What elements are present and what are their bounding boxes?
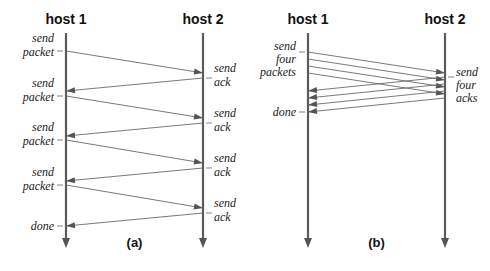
packet-message-arrow: [66, 51, 203, 73]
packet-message-arrow: [66, 96, 203, 118]
ack-message-arrow: [308, 98, 445, 112]
host-1-event-label: packet: [22, 90, 55, 104]
host-2-event-label: send: [214, 61, 237, 75]
packet-message-arrow: [66, 140, 203, 163]
arrowhead-icon: [308, 108, 317, 114]
host-2-event-label: ack: [214, 75, 231, 89]
host-1-header: host 1: [45, 11, 86, 27]
host-1-event-label: packets: [259, 65, 296, 79]
host-2-event-label: four: [456, 78, 476, 92]
diagram-b-sliding-window: host 1host 2sendfourpacketsdonesendfoura…: [259, 11, 479, 250]
host-2-header: host 2: [424, 11, 465, 27]
host-1-event-label: done: [31, 219, 55, 233]
arrowhead-icon: [436, 69, 445, 75]
arrowhead-icon: [66, 87, 75, 93]
arrowhead-icon: [194, 114, 203, 120]
diagram-caption: (b): [368, 235, 385, 250]
time-arrow-down-icon: [441, 238, 449, 248]
arrowhead-icon: [308, 87, 317, 93]
host-2-event-label: send: [214, 196, 237, 210]
arrowhead-icon: [436, 90, 445, 96]
arrowhead-icon: [194, 69, 203, 75]
packet-message-arrow: [66, 185, 203, 208]
host-1-event-label: done: [273, 105, 297, 119]
ack-message-arrow: [308, 91, 445, 105]
arrowhead-icon: [194, 159, 203, 165]
host-2-event-label: send: [456, 65, 479, 79]
arrowhead-icon: [436, 83, 445, 89]
host-1-event-label: packet: [22, 179, 55, 193]
ack-message-arrow: [66, 213, 203, 226]
host-1-event-label: four: [276, 52, 296, 66]
host-1-event-label: send: [32, 76, 55, 90]
host-1-event-label: send: [274, 39, 297, 53]
host-2-header: host 2: [182, 11, 223, 27]
arrowhead-icon: [308, 94, 317, 100]
diagram-caption: (a): [127, 235, 143, 250]
host-1-event-label: packet: [22, 134, 55, 148]
host-1-header: host 1: [287, 11, 328, 27]
host-2-event-label: ack: [214, 120, 231, 134]
packet-timing-diagram: host 1host 2sendpacketsendpacketsendpack…: [0, 0, 490, 271]
arrowhead-icon: [66, 177, 75, 183]
ack-message-arrow: [66, 123, 203, 136]
host-1-event-label: send: [32, 165, 55, 179]
time-arrow-down-icon: [304, 238, 312, 248]
ack-message-arrow: [66, 78, 203, 91]
host-2-event-label: ack: [214, 210, 231, 224]
time-arrow-down-icon: [62, 238, 70, 248]
host-2-event-label: ack: [214, 165, 231, 179]
arrowhead-icon: [436, 76, 445, 82]
host-2-event-label: send: [214, 106, 237, 120]
host-1-event-label: send: [32, 120, 55, 134]
ack-message-arrow: [66, 168, 203, 181]
time-arrow-down-icon: [199, 238, 207, 248]
arrowhead-icon: [308, 101, 317, 107]
arrowhead-icon: [66, 222, 75, 228]
host-2-event-label: acks: [456, 91, 478, 105]
host-1-event-label: send: [32, 31, 55, 45]
arrowhead-icon: [66, 132, 75, 138]
host-1-event-label: packet: [22, 45, 55, 59]
host-2-event-label: send: [214, 151, 237, 165]
arrowhead-icon: [194, 204, 203, 210]
diagram-a-stop-and-wait: host 1host 2sendpacketsendpacketsendpack…: [22, 11, 237, 250]
